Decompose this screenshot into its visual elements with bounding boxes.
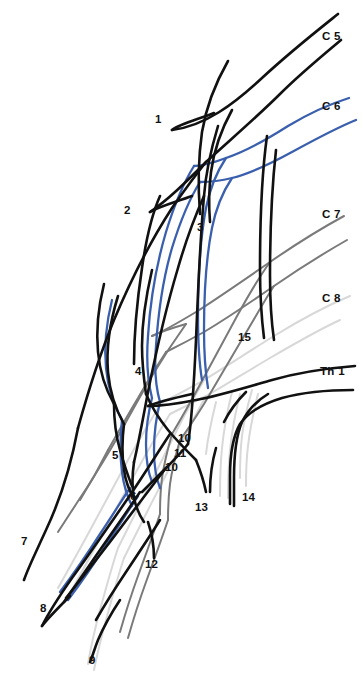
root-label-th1: Th 1 <box>320 366 345 378</box>
callout-label-n3: 3 <box>197 222 203 234</box>
figure-background <box>0 0 363 693</box>
callout-label-n9: 9 <box>89 655 95 667</box>
root-label-c6: C 6 <box>322 101 341 113</box>
callout-label-n4: 4 <box>135 366 141 378</box>
callout-label-n2: 2 <box>124 205 130 217</box>
callout-label-n11: 11 <box>174 448 186 460</box>
callout-label-n8: 8 <box>40 603 46 615</box>
callout-label-n15: 15 <box>238 332 251 344</box>
callout-label-n13: 13 <box>195 502 208 514</box>
callout-label-n10b: 10 <box>165 462 178 474</box>
callout-label-n1: 1 <box>155 114 161 126</box>
callout-label-n7: 7 <box>21 536 27 548</box>
callout-label-n6: 6 <box>130 491 136 503</box>
root-label-c8: C 8 <box>322 293 341 305</box>
brachial-plexus-figure: C 5C 6C 7C 8Th 1 12345678910111012131415 <box>0 0 363 693</box>
root-label-c5: C 5 <box>322 31 341 43</box>
callout-label-n12: 12 <box>145 559 158 571</box>
callout-label-n5: 5 <box>112 450 118 462</box>
root-label-c7: C 7 <box>322 209 341 221</box>
callout-label-n14: 14 <box>242 492 255 504</box>
callout-label-n10a: 10 <box>178 433 191 445</box>
plexus-drawing <box>0 0 363 693</box>
